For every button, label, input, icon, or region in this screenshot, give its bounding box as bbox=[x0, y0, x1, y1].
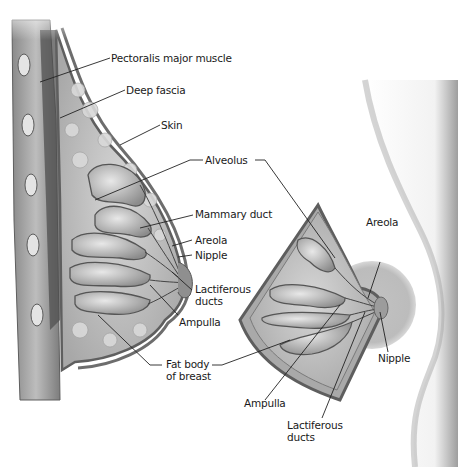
label-ampulla-right: Ampulla bbox=[244, 397, 286, 409]
label-nipple-left: Nipple bbox=[195, 249, 227, 261]
label-fat-body-line1: Fat body bbox=[166, 358, 209, 370]
label-fat-body-of-breast: Fat body of breast bbox=[166, 358, 211, 382]
label-alveolus: Alveolus bbox=[205, 154, 248, 166]
label-skin: Skin bbox=[161, 119, 183, 131]
label-areola-left: Areola bbox=[195, 234, 227, 246]
label-deep-fascia: Deep fascia bbox=[126, 84, 186, 96]
label-pectoralis-major-muscle: Pectoralis major muscle bbox=[111, 52, 232, 64]
label-areola-right: Areola bbox=[366, 216, 398, 228]
label-fat-body-line2: of breast bbox=[166, 370, 211, 382]
label-nipple-right: Nipple bbox=[378, 352, 410, 364]
breast-anatomy-illustration bbox=[0, 0, 458, 467]
label-lactiferous-right-line2: ducts bbox=[287, 431, 315, 443]
label-lactiferous-line1: Lactiferous bbox=[195, 283, 251, 295]
label-lactiferous-right-line1: Lactiferous bbox=[287, 419, 343, 431]
label-ampulla-left: Ampulla bbox=[179, 316, 221, 328]
label-lactiferous-line2: ducts bbox=[195, 295, 223, 307]
label-lactiferous-ducts-right: Lactiferous ducts bbox=[287, 419, 343, 443]
label-mammary-duct: Mammary duct bbox=[195, 208, 272, 220]
label-lactiferous-ducts-left: Lactiferous ducts bbox=[195, 283, 251, 307]
